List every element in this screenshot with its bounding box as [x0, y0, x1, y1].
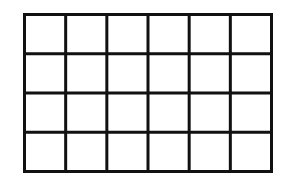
grid-cell	[230, 54, 271, 93]
grid-cell	[25, 93, 66, 132]
grid-cell	[107, 54, 148, 93]
grid-diagram	[23, 13, 273, 173]
grid-lines	[23, 13, 273, 173]
grid-cell	[25, 54, 66, 93]
grid-cell	[66, 132, 107, 171]
grid-cell	[189, 15, 230, 54]
grid-cell	[148, 54, 189, 93]
grid-cell	[230, 132, 271, 171]
grid-cell	[25, 132, 66, 171]
grid-cell	[230, 15, 271, 54]
grid-cell	[66, 15, 107, 54]
grid-cell	[148, 15, 189, 54]
grid-cell	[25, 15, 66, 54]
grid-cell	[107, 15, 148, 54]
grid-cell	[66, 54, 107, 93]
grid-cell	[107, 132, 148, 171]
grid-cell	[189, 54, 230, 93]
grid-cell	[107, 93, 148, 132]
grid-cell	[230, 93, 271, 132]
grid-cell	[189, 93, 230, 132]
grid-cell	[148, 93, 189, 132]
grid-cell	[189, 132, 230, 171]
grid-cell	[148, 132, 189, 171]
grid-cell	[66, 93, 107, 132]
